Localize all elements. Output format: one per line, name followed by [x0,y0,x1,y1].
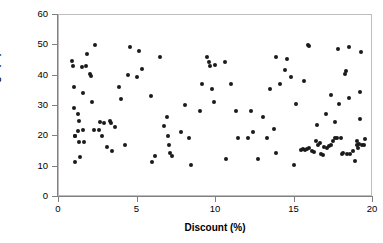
y-tick-label: 60 [20,8,48,19]
y-tick-label: 30 [20,99,48,110]
scatter-point [117,85,121,89]
x-tick-label: 0 [43,203,73,214]
y-tick-mark [52,44,57,45]
scatter-point [333,120,337,124]
scatter-point [318,141,322,145]
scatter-point [351,149,355,153]
scatter-point [302,79,306,83]
y-tick-label: 40 [20,69,48,80]
scatter-point [198,109,202,113]
scatter-point [119,97,123,101]
scatter-point [81,91,85,95]
scatter-point [77,119,81,123]
y-tick-mark [52,14,57,15]
scatter-point [179,130,183,134]
y-tick-label: 50 [20,38,48,49]
x-tick-mark [215,197,216,202]
scatter-point [362,143,366,147]
scatter-point [321,153,325,157]
y-axis-title-text: Net Sales Above Average (%) [0,53,1,191]
y-tick-label: 20 [20,129,48,140]
scatter-point [358,117,362,121]
scatter-point [353,159,357,163]
scatter-point [89,74,93,78]
scatter-point [165,115,169,119]
scatter-point [331,139,335,143]
scatter-point [92,128,96,132]
scatter-plot-figure: Net Sales Above Average (%) 010203040506… [0,0,383,243]
scatter-point [210,87,214,91]
scatter-point [123,143,127,147]
x-axis-title-text: Discount (%) [184,222,245,233]
scatter-point [158,55,162,59]
y-tick-mark [52,166,57,167]
x-tick-mark [137,197,138,202]
scatter-point [126,73,130,77]
scatter-point [153,154,157,158]
scatter-point [358,90,362,94]
scatter-point [285,57,289,61]
scatter-point [205,55,209,59]
scatter-point [344,69,348,73]
scatter-point [189,163,193,167]
scatter-point [256,157,260,161]
scatter-point [212,100,216,104]
scatter-point [234,109,238,113]
x-axis-title: Discount (%) [58,222,372,233]
scatter-point [272,127,276,131]
scatter-point [72,85,76,89]
scatter-point [84,64,88,68]
scatter-point [208,64,212,68]
scatter-point [76,112,80,116]
x-tick-mark [58,197,59,202]
scatter-point [274,151,278,155]
scatter-point [76,129,80,133]
scatter-point [315,123,319,127]
scatter-point [73,134,77,138]
scatter-point [307,44,311,48]
scatter-point [166,134,170,138]
scatter-point [71,64,75,68]
scatter-point [105,145,109,149]
scatter-point [223,60,227,64]
y-tick-mark [52,196,57,197]
scatter-point [140,67,144,71]
scatter-point [236,136,240,140]
scatter-point [72,106,76,110]
scatter-point [359,50,363,54]
scatter-point [77,140,81,144]
scatter-point [292,163,296,167]
y-tick-mark [52,105,57,106]
scatter-point [90,100,94,104]
x-tick-mark [372,197,373,202]
scatter-point [268,87,272,91]
scatter-point [278,82,282,86]
scatter-point [128,45,132,49]
scatter-point [97,128,101,132]
scatter-point [224,157,228,161]
scatter-point [213,63,217,67]
scatter-point [283,68,287,72]
scatter-point [347,45,351,49]
scatter-point [363,137,367,141]
scatter-point [73,160,77,164]
x-tick-mark [294,197,295,202]
scatter-point [162,124,166,128]
x-tick-label: 20 [357,203,383,214]
scatter-point [82,140,86,144]
y-axis-title: Net Sales Above Average (%) [0,0,14,243]
y-tick-label: 0 [20,190,48,201]
scatter-point [329,143,333,147]
scatter-point [93,43,97,47]
scatter-point [78,155,82,159]
scatter-point [170,154,174,158]
scatter-point [356,146,360,150]
scatter-point [329,93,333,97]
scatter-point [246,136,250,140]
scatter-point [149,94,153,98]
scatter-point [183,103,187,107]
x-tick-label: 10 [200,203,230,214]
scatter-point [109,121,113,125]
y-tick-label: 10 [20,160,48,171]
scatter-point [274,55,278,59]
